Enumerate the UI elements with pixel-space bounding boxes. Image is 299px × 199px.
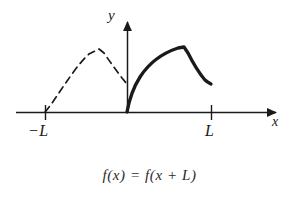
figure-caption: f(x) = f(x + L) (0, 166, 299, 184)
dashed-curve-previous-period (45, 49, 127, 112)
y-axis-label: y (108, 8, 115, 23)
tick-label-negative-l: −L (28, 123, 49, 139)
x-axis-label: x (272, 115, 278, 129)
periodic-function-figure: y x −L L f(x) = f(x + L) (0, 0, 299, 199)
caption-equation: f(x) = f(x + L) (102, 167, 196, 184)
solid-curve-current-period (127, 47, 211, 112)
tick-label-positive-l: L (205, 123, 214, 139)
